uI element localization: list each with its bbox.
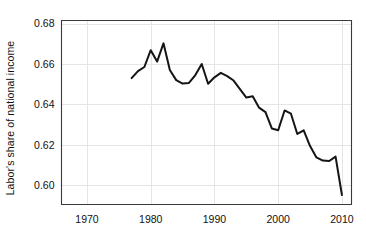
gridlines [62,21,352,205]
line-chart-plot: 0.600.620.640.660.68 1970198019902000201… [0,0,366,236]
x-tick-label: 1980 [139,213,163,225]
y-tick-label: 0.66 [34,58,55,70]
y-tick-label: 0.62 [34,139,55,151]
y-tick-labels: 0.600.620.640.660.68 [34,17,55,191]
axis-lines [62,20,353,205]
x-tick-labels: 19701980199020002010 [75,213,353,225]
chart-figure: Labor's share of national income 0.600.6… [0,0,366,236]
y-tick-label: 0.64 [34,98,55,110]
y-tick-label: 0.60 [34,179,55,191]
x-tick-label: 1990 [203,213,227,225]
x-tick-label: 2010 [330,213,354,225]
x-tick-label: 1970 [75,213,99,225]
y-tick-label: 0.68 [34,17,55,29]
x-tick-label: 2000 [267,213,291,225]
data-line-labor-share [132,43,342,195]
